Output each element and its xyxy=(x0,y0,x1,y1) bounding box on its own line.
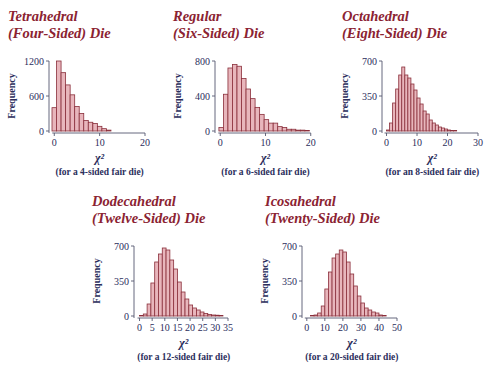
bar xyxy=(354,286,358,316)
bar xyxy=(328,272,332,316)
bar xyxy=(336,254,340,316)
bar xyxy=(357,296,361,316)
bar xyxy=(350,274,354,316)
bar xyxy=(332,258,336,316)
histogram: 035070001020304050Frequencyχ²(for a 20-s… xyxy=(0,0,493,372)
bar xyxy=(346,262,350,316)
x-tick-label: 0 xyxy=(304,322,309,333)
x-tick-label: 10 xyxy=(320,322,330,333)
bar xyxy=(325,289,329,316)
bar xyxy=(339,250,343,316)
x-tick-label: 50 xyxy=(392,322,402,333)
x-tick-label: 30 xyxy=(356,322,366,333)
x-axis-label: χ² xyxy=(345,336,357,350)
y-axis-label: Frequency xyxy=(259,258,270,303)
bar xyxy=(343,252,347,316)
x-tick-label: 20 xyxy=(338,322,348,333)
bar xyxy=(318,313,322,316)
chart-note: (for a 20-sided fair die) xyxy=(305,352,398,363)
bar xyxy=(314,315,318,316)
y-tick-label: 0 xyxy=(292,311,297,322)
bar xyxy=(365,308,369,316)
bar xyxy=(379,315,383,316)
y-tick-label: 700 xyxy=(282,241,297,252)
bar xyxy=(368,310,372,316)
bar xyxy=(383,316,387,317)
bar xyxy=(375,313,379,316)
bar xyxy=(372,312,376,316)
bar xyxy=(321,306,325,316)
y-tick-label: 350 xyxy=(282,276,297,287)
x-tick-label: 40 xyxy=(374,322,384,333)
bar xyxy=(310,316,314,317)
bar xyxy=(361,303,365,316)
bars xyxy=(310,250,386,316)
